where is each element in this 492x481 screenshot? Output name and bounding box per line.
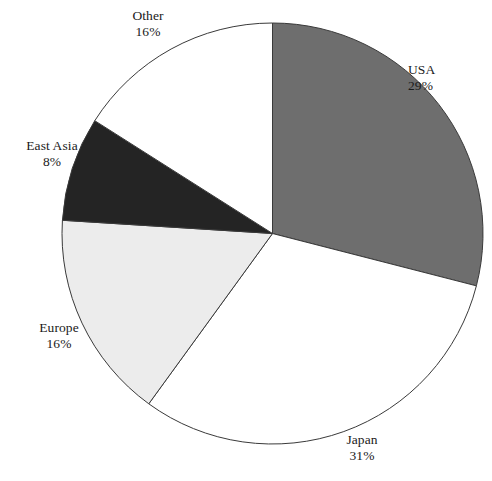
slice-label-usa: USA 29% bbox=[408, 62, 486, 94]
slice-label-east-asia-value: 8% bbox=[2, 154, 102, 170]
slice-label-europe: Europe 16% bbox=[12, 320, 106, 352]
slice-label-other: Other 16% bbox=[100, 8, 196, 40]
slice-label-other-name: Other bbox=[100, 8, 196, 24]
slice-label-japan: Japan 31% bbox=[322, 432, 402, 464]
slice-label-other-value: 16% bbox=[100, 24, 196, 40]
slice-label-east-asia-name: East Asia bbox=[2, 138, 102, 154]
slice-label-japan-value: 31% bbox=[322, 448, 402, 464]
slice-label-europe-name: Europe bbox=[12, 320, 106, 336]
slice-label-japan-name: Japan bbox=[322, 432, 402, 448]
slice-label-east-asia: East Asia 8% bbox=[2, 138, 102, 170]
slice-label-usa-name: USA bbox=[408, 62, 486, 78]
slice-label-usa-value: 29% bbox=[408, 78, 486, 94]
slice-label-europe-value: 16% bbox=[12, 336, 106, 352]
pie-chart: USA 29% Other 16% East Asia 8% Europe 16… bbox=[0, 0, 492, 481]
